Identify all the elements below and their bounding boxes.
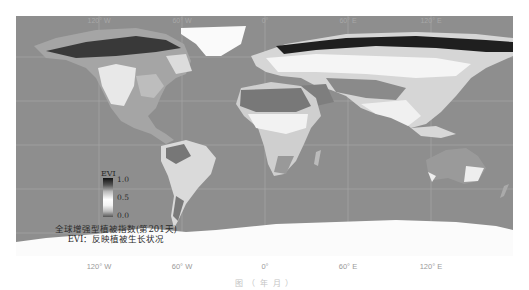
africa [236, 82, 321, 176]
bottom-label-120w: 120° W [87, 262, 112, 271]
madagascar [314, 150, 321, 166]
new-zealand [500, 184, 509, 198]
north-america [34, 28, 192, 144]
australia [426, 148, 486, 184]
legend-colorbar [103, 178, 113, 217]
legend-tick-max: 1.0 [117, 175, 129, 184]
legend-title: EVI [101, 169, 116, 178]
greenland [181, 26, 246, 56]
bottom-label-60w: 60° W [172, 262, 193, 271]
south-america [161, 140, 216, 228]
top-label-60w: 60° W [172, 17, 191, 24]
top-label-120e: 120° E [420, 17, 441, 24]
annotation-line-2: EVI：反映植被生长状况 [46, 234, 186, 244]
legend-tick-mid: 0.5 [117, 193, 129, 202]
maritime-southeast-asia [411, 126, 456, 138]
global-evi-map [16, 16, 513, 256]
top-label-120w: 120° W [87, 17, 110, 24]
bottom-label-60e: 60° E [339, 262, 357, 271]
map-annotation: 全球增强型植被指数(第201天) EVI：反映植被生长状况 [46, 224, 186, 244]
annotation-line-1: 全球增强型植被指数(第201天) [46, 224, 186, 234]
map-raster [16, 16, 513, 256]
bottom-label-0: 0° [261, 262, 268, 271]
top-label-0: 0° [262, 17, 269, 24]
top-label-60e: 60° E [339, 17, 356, 24]
bottom-label-120e: 120° E [420, 262, 443, 271]
figure-caption: 图 （ 年 月 ） [0, 277, 529, 288]
legend-tick-min: 0.0 [117, 211, 129, 220]
